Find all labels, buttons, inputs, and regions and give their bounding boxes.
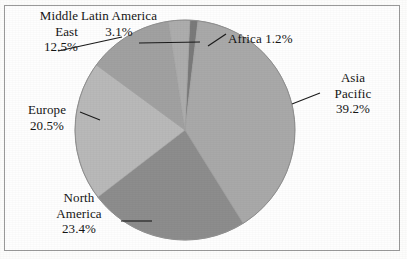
slice-label-africa-line1: Africa 1.2% bbox=[228, 31, 293, 47]
slice-label-latin-america-line1: Latin America bbox=[74, 8, 164, 24]
slice-label-middle-east: Middle East 12.5% bbox=[10, 8, 78, 55]
slice-label-middle-east-line2: East bbox=[10, 24, 78, 40]
slice-label-asia-pacific-line2: Pacific bbox=[322, 86, 384, 102]
slice-label-middle-east-line1: Middle bbox=[10, 8, 78, 24]
chart-area: Middle East 12.5% Latin America 3.1% Afr… bbox=[0, 0, 407, 259]
slice-label-asia-pacific-line3: 39.2% bbox=[322, 101, 384, 117]
leader-line-asia-pacific bbox=[292, 93, 320, 104]
slice-label-europe: Europe 20.5% bbox=[14, 102, 80, 133]
slice-label-north-america-line3: 23.4% bbox=[38, 221, 120, 237]
slice-label-asia-pacific: Asia Pacific 39.2% bbox=[322, 70, 384, 117]
slice-label-asia-pacific-line1: Asia bbox=[322, 70, 384, 86]
slice-label-latin-america-line2: 3.1% bbox=[74, 24, 164, 40]
slice-label-north-america: North America 23.4% bbox=[38, 190, 120, 237]
slice-label-middle-east-line3: 12.5% bbox=[10, 39, 78, 55]
slice-label-north-america-line1: North bbox=[38, 190, 120, 206]
pie-chart-figure: Middle East 12.5% Latin America 3.1% Afr… bbox=[0, 0, 407, 259]
slice-label-north-america-line2: America bbox=[38, 206, 120, 222]
slice-label-latin-america: Latin America 3.1% bbox=[74, 8, 164, 39]
slice-label-europe-line1: Europe bbox=[14, 102, 80, 118]
slice-label-africa: Africa 1.2% bbox=[228, 31, 293, 47]
slice-label-europe-line2: 20.5% bbox=[14, 118, 80, 134]
